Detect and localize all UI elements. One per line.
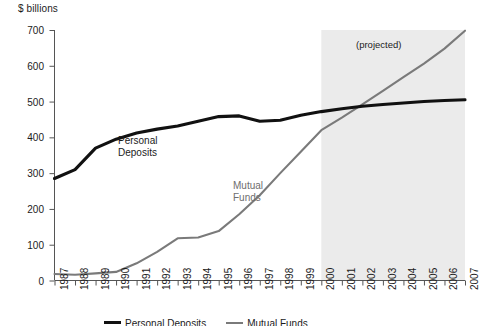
y-tick-label: 200 [14,203,44,214]
y-tick-label: 300 [14,168,44,179]
x-tick-label: 2006 [448,267,459,289]
x-tick-label: 2002 [366,267,377,289]
x-tick-label: 1993 [182,267,193,289]
x-tick-label: 1991 [141,267,152,289]
y-tick-label: 100 [14,239,44,250]
x-tick-label: 1990 [120,267,131,289]
x-tick-label: 2003 [387,267,398,289]
x-tick-label: 2001 [346,267,357,289]
x-tick-label: 2000 [325,267,336,289]
x-tick-label: 1994 [202,267,213,289]
x-tick-label: 1992 [161,267,172,289]
y-tick-label: 400 [14,132,44,143]
x-tick-label: 2004 [407,267,418,289]
legend: Personal DepositsMutual Funds [0,318,475,326]
x-tick-label: 2005 [428,267,439,289]
projected-annotation: (projected) [356,39,401,50]
x-tick-label: 1995 [223,267,234,289]
x-tick-label: 1996 [243,267,254,289]
legend-label-mutual-funds: Mutual Funds [247,318,308,326]
x-tick-label: 1987 [59,267,70,289]
y-axis-ticks [50,31,55,282]
personal-deposits-label-line1: Personal [118,135,157,147]
mutual-funds-label-line2: Funds [233,192,263,204]
x-axis-ticks [55,281,466,286]
x-tick-label: 2007 [469,267,480,289]
x-tick-label: 1997 [264,267,275,289]
y-tick-label: 0 [14,275,44,286]
projected-shaded-region [321,30,465,281]
x-tick-label: 1998 [284,267,295,289]
mutual-funds-label-line1: Mutual [233,180,263,192]
personal-deposits-label-line2: Deposits [118,147,157,159]
legend-label-personal-deposits: Personal Deposits [125,318,206,326]
series-annotation-personal-deposits: Personal Deposits [118,135,157,158]
y-tick-label: 700 [14,25,44,36]
y-tick-label: 500 [14,96,44,107]
y-tick-label: 600 [14,60,44,71]
x-tick-label: 1999 [305,267,316,289]
x-tick-label: 1988 [79,267,90,289]
x-tick-label: 1989 [100,267,111,289]
legend-swatch-personal-deposits [104,321,121,324]
series-annotation-mutual-funds: Mutual Funds [233,180,263,203]
legend-swatch-mutual-funds [226,322,243,324]
